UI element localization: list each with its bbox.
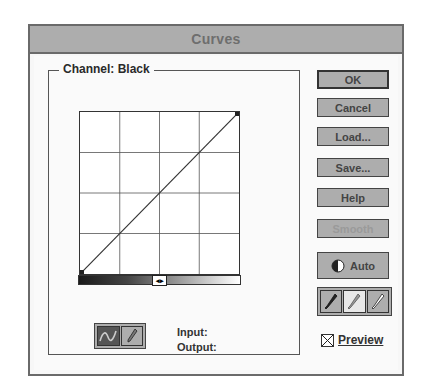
- eyedropper-group: [317, 287, 392, 316]
- gray-eyedropper-button[interactable]: [343, 290, 365, 313]
- ok-button[interactable]: OK: [317, 70, 389, 89]
- input-label: Input:: [177, 325, 217, 340]
- checkmark-x-icon: [322, 335, 333, 346]
- channel-groupbox: Channel: Black ◂▸: [48, 70, 300, 355]
- white-eyedropper-icon: [371, 293, 385, 311]
- preview-label: Preview: [338, 333, 383, 347]
- dialog-title: Curves: [191, 31, 240, 47]
- smooth-button[interactable]: Smooth: [317, 219, 389, 238]
- black-eyedropper-button[interactable]: [320, 290, 342, 313]
- curve-grid-icon: [80, 112, 239, 274]
- dialog-body: Channel: Black ◂▸: [34, 56, 398, 370]
- curve-graph[interactable]: [79, 111, 240, 275]
- gradient-direction-toggle[interactable]: ◂▸: [152, 275, 167, 286]
- help-button[interactable]: Help: [317, 188, 389, 207]
- gray-eyedropper-icon: [347, 293, 361, 311]
- load-button[interactable]: Load...: [317, 127, 389, 146]
- channel-label[interactable]: Channel: Black: [59, 62, 154, 76]
- pencil-tool-button[interactable]: [121, 326, 144, 346]
- auto-label: Auto: [350, 260, 375, 272]
- curve-icon: [99, 329, 117, 343]
- auto-button[interactable]: Auto: [317, 252, 389, 279]
- contrast-icon: [331, 259, 345, 273]
- input-output-readout: Input: Output:: [177, 325, 217, 355]
- white-eyedropper-button[interactable]: [367, 290, 389, 313]
- cancel-button[interactable]: Cancel: [317, 98, 389, 117]
- preview-checkbox-box[interactable]: [321, 334, 334, 347]
- tool-toggle: [94, 323, 146, 349]
- curve-tool-button[interactable]: [97, 326, 120, 346]
- black-eyedropper-icon: [324, 293, 338, 311]
- save-button[interactable]: Save...: [317, 158, 389, 177]
- gradient-bar: ◂▸: [78, 275, 241, 285]
- pencil-icon: [126, 328, 138, 344]
- curves-dialog: Curves Channel: Black: [28, 24, 404, 376]
- preview-checkbox[interactable]: Preview: [321, 333, 383, 347]
- output-label: Output:: [177, 340, 217, 355]
- title-bar[interactable]: Curves: [30, 26, 402, 54]
